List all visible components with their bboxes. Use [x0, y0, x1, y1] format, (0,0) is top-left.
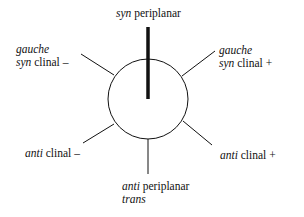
label-gauche-plus-line1: gauche — [219, 44, 252, 56]
anti-clinal-minus-bond — [83, 124, 114, 143]
label-anti-clinal-minus-italic: anti — [25, 147, 43, 159]
label-anti-periplanar: anti periplanar trans — [122, 180, 189, 206]
label-gauche-minus-line1: gauche — [16, 43, 49, 55]
label-syn-periplanar: syn periplanar — [116, 7, 181, 20]
label-gauche-syn-clinal-plus: gauche syn clinal + — [219, 44, 272, 70]
gauche-syn-clinal-minus-bond — [81, 54, 114, 75]
label-anti-clinal-plus: anti clinal + — [220, 149, 276, 162]
label-anti-clinal-plus-plain: clinal + — [238, 149, 276, 161]
label-gauche-minus-syn: syn — [16, 56, 31, 68]
label-trans: trans — [122, 193, 146, 205]
label-anti-periplanar-italic: anti — [122, 180, 140, 192]
label-anti-periplanar-plain: periplanar — [140, 180, 190, 192]
label-gauche-minus-clinal: clinal – — [31, 56, 68, 68]
label-anti-clinal-minus: anti clinal – — [25, 147, 80, 160]
label-syn-periplanar-italic: syn — [116, 7, 131, 19]
label-gauche-syn-clinal-minus: gauche syn clinal – — [16, 43, 68, 69]
anti-clinal-plus-bond — [183, 121, 212, 145]
label-gauche-plus-syn: syn — [219, 57, 234, 69]
label-anti-clinal-plus-italic: anti — [220, 149, 238, 161]
gauche-syn-clinal-plus-bond — [182, 51, 215, 76]
label-gauche-plus-clinal: clinal + — [234, 57, 272, 69]
label-syn-periplanar-plain: periplanar — [131, 7, 181, 19]
label-anti-clinal-minus-plain: clinal – — [43, 147, 80, 159]
